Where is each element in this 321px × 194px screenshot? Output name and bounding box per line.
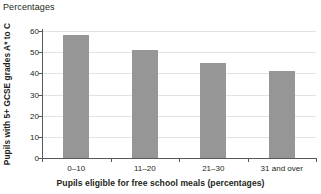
- x-axis-title: Pupils eligible for free school meals (p…: [0, 178, 321, 188]
- y-axis-tick-mark: [38, 116, 42, 117]
- y-axis-line: [42, 29, 43, 160]
- y-axis-tick-labels: 0102030405060: [18, 0, 39, 194]
- y-axis-tick-mark: [38, 95, 42, 96]
- x-axis-tick-label: 21–30: [202, 164, 224, 173]
- y-axis-tick-mark: [38, 158, 42, 159]
- x-axis-tick-mark: [179, 158, 180, 162]
- bar: [132, 50, 158, 158]
- x-axis-tick-mark: [111, 158, 112, 162]
- bar-chart: Percentages Pupils with 5+ GCSE grades A…: [0, 0, 321, 194]
- bar: [63, 35, 89, 158]
- y-axis-tick-mark: [38, 52, 42, 53]
- x-axis-tick-label: 11–20: [134, 164, 156, 173]
- bar-series: [42, 31, 316, 158]
- y-axis-tick-mark: [38, 137, 42, 138]
- y-axis-tick-mark: [38, 73, 42, 74]
- x-axis-tick-mark: [42, 158, 43, 162]
- plot-area: [42, 31, 316, 158]
- y-axis-tick-mark: [38, 31, 42, 32]
- x-axis-tick-label: 31 and over: [261, 164, 303, 173]
- bar: [200, 63, 226, 158]
- y-axis-title-text: Pupils with 5+ GCSE grades A* to C: [2, 23, 12, 165]
- x-axis-tick-mark: [316, 158, 317, 162]
- x-axis-tick-label: 0–10: [67, 164, 85, 173]
- y-axis-title: Pupils with 5+ GCSE grades A* to C: [0, 18, 14, 170]
- bar: [269, 71, 295, 158]
- x-axis-tick-mark: [248, 158, 249, 162]
